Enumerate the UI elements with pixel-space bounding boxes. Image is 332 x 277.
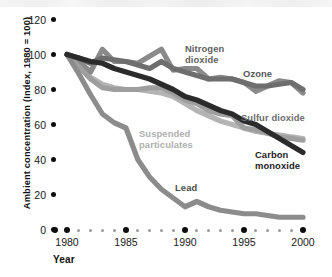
x-tick-dot-1990 <box>182 227 188 233</box>
series-label-suspended-particulates: Suspended particulates <box>139 129 193 150</box>
x-tick-dot-1993 <box>219 229 222 232</box>
x-tick-dot-1988 <box>160 229 163 232</box>
series-label-carbon-monoxide: Carbon monoxide <box>255 150 300 171</box>
x-tick-dot-1985 <box>123 227 129 233</box>
series-label-sulfur-dioxide: Sulfur dioxide <box>241 113 305 124</box>
x-tick-dot-1991 <box>195 229 198 232</box>
x-tick-label-1990: 1990 <box>173 236 196 248</box>
x-tick-dot-1989 <box>172 229 175 232</box>
x-tick-dot-1980 <box>64 227 70 233</box>
x-tick-dot-1982 <box>89 229 92 232</box>
x-tick-dot-1981 <box>77 229 80 232</box>
series-label-ozone: Ozone <box>243 69 272 80</box>
x-tick-dot-1984 <box>113 229 116 232</box>
x-tick-dot-1998 <box>278 229 281 232</box>
x-tick-label-1980: 1980 <box>55 236 78 248</box>
x-tick-dot-1983 <box>101 229 104 232</box>
x-tick-dot-1986 <box>136 229 139 232</box>
x-tick-dot-1999 <box>290 229 293 232</box>
x-tick-label-2000: 2000 <box>291 236 314 248</box>
x-tick-dot-1987 <box>148 229 151 232</box>
x-tick-dot-1997 <box>266 229 269 232</box>
x-tick-label-1985: 1985 <box>114 236 137 248</box>
x-tick-dot-1996 <box>254 229 257 232</box>
x-tick-label-1995: 1995 <box>232 236 255 248</box>
x-tick-dot-1994 <box>231 229 234 232</box>
x-axis-title: Year <box>53 254 75 265</box>
x-tick-dot-1992 <box>207 229 210 232</box>
series-label-lead: Lead <box>175 183 197 194</box>
chart-figure: Ambient concentration (Index, 1980 = 100… <box>0 0 332 277</box>
x-tick-dot-1995 <box>241 227 247 233</box>
series-label-nitrogen-dioxide: Nitrogen dioxide <box>185 44 224 65</box>
x-tick-dot-2000 <box>300 227 306 233</box>
